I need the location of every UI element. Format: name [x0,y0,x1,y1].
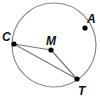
point-a [82,25,87,30]
label-c: C [2,30,11,44]
label-m: M [46,34,57,48]
circle-diagram: C M A T [0,0,100,98]
point-t [74,76,79,81]
point-m [48,47,53,52]
point-c [11,41,16,46]
label-t: T [78,84,87,98]
segment-mt [51,50,77,79]
label-a: A [86,12,96,26]
